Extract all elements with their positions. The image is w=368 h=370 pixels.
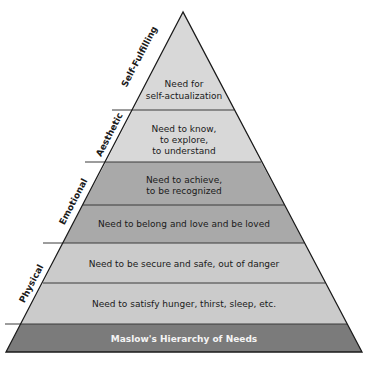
level-label-2b: to explore,	[160, 135, 208, 145]
level-label-6: Need to satisfy hunger, thirst, sleep, e…	[92, 299, 276, 309]
maslow-pyramid: Need for self-actualization Need to know…	[0, 0, 368, 370]
level-label-2a: Need to know,	[152, 124, 217, 134]
base-title: Maslow's Hierarchy of Needs	[111, 334, 257, 344]
level-label-1a: Need for	[165, 79, 204, 89]
level-label-4: Need to belong and love and be loved	[98, 219, 270, 229]
level-label-2c: to understand	[152, 146, 215, 156]
level-label-3b: to be recognized	[146, 186, 221, 196]
level-label-1b: self-actualization	[146, 91, 222, 101]
level-label-5: Need to be secure and safe, out of dange…	[89, 259, 280, 269]
level-label-3a: Need to achieve,	[146, 175, 222, 185]
